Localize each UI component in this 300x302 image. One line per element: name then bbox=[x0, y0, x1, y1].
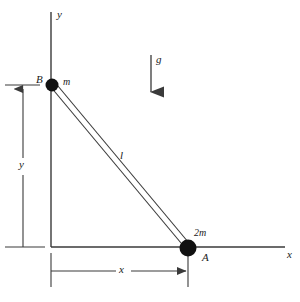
mass-a-mass-label: 2m bbox=[194, 228, 206, 238]
physics-diagram-figure: y x B m 2m A l g y x bbox=[0, 0, 300, 302]
y-axis-label: y bbox=[57, 9, 62, 20]
mass-a-point-label: A bbox=[202, 252, 209, 263]
rod-length-label: l bbox=[120, 150, 123, 161]
x-axis-label: x bbox=[287, 249, 292, 260]
mass-a-marker bbox=[180, 240, 197, 257]
gravity-label: g bbox=[156, 54, 162, 65]
diagram-canvas bbox=[0, 0, 300, 302]
rod-bar bbox=[50, 82, 191, 249]
mass-b-marker bbox=[46, 79, 59, 92]
mass-b-mass-label: m bbox=[63, 77, 70, 87]
mass-b-point-label: B bbox=[36, 74, 43, 85]
dimension-label-y: y bbox=[19, 159, 24, 170]
dimension-label-x: x bbox=[119, 264, 124, 275]
